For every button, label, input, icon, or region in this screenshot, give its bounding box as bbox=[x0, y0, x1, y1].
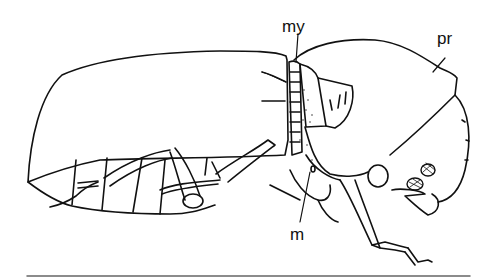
beetle-drawing bbox=[0, 0, 489, 277]
elytron bbox=[28, 51, 288, 182]
label-m: m bbox=[290, 226, 304, 243]
mesepimeron bbox=[289, 61, 302, 155]
pronotum bbox=[294, 40, 457, 155]
head bbox=[438, 95, 469, 202]
label-pr: pr bbox=[437, 30, 452, 47]
label-my: my bbox=[282, 18, 305, 35]
leader-m bbox=[300, 172, 310, 222]
abdomen bbox=[28, 182, 215, 214]
